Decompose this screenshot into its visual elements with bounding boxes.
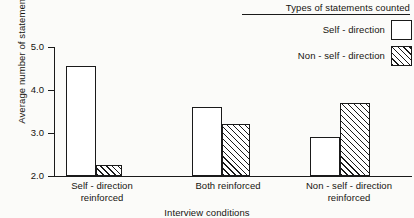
- chart-figure: Types of statements counted Self - direc…: [0, 0, 414, 218]
- x-tick-label-group3: Non - self - direction reinforced: [286, 180, 412, 203]
- bar-non-self-direction-group1: [96, 165, 122, 176]
- bar-non-self-direction-group3: [340, 103, 370, 176]
- legend-item-non-self-direction: Non - self - direction: [232, 45, 412, 66]
- x-tick-label-group3-line1: Non - self - direction: [286, 180, 412, 192]
- x-tick-label-group3-line2: reinforced: [286, 192, 412, 204]
- y-axis-line: [54, 47, 55, 177]
- legend-label-non-self-direction: Non - self - direction: [298, 50, 385, 61]
- x-tick-label-group1-line2: reinforced: [42, 192, 162, 204]
- x-axis-label: Interview conditions: [0, 207, 414, 218]
- y-tick-label-5: 5.0: [31, 42, 44, 52]
- hatched-square-swatch-icon: [391, 46, 412, 66]
- legend: Types of statements counted Self - direc…: [232, 2, 412, 71]
- open-square-swatch-icon: [391, 20, 412, 40]
- legend-label-self-direction: Self - direction: [323, 24, 385, 35]
- x-tick-label-group2-line1: Both reinforced: [168, 180, 288, 192]
- bar-self-direction-group3: [310, 137, 340, 176]
- legend-title: Types of statements counted: [232, 2, 412, 13]
- x-tick-label-group1: Self - direction reinforced: [42, 180, 162, 203]
- x-tick-label-group1-line1: Self - direction: [42, 180, 162, 192]
- x-axis-line: [54, 176, 412, 177]
- bar-non-self-direction-group2: [222, 124, 250, 176]
- bar-self-direction-group1: [66, 66, 96, 176]
- legend-title-underline: [242, 14, 410, 15]
- y-tick-label-4: 4.0: [31, 85, 44, 95]
- bar-self-direction-group2: [192, 107, 222, 176]
- legend-item-self-direction: Self - direction: [232, 19, 412, 40]
- y-axis-tick-labels: 5.0 4.0 3.0 2.0: [18, 40, 44, 185]
- y-tick-label-3: 3.0: [31, 128, 44, 138]
- x-tick-label-group2: Both reinforced: [168, 180, 288, 192]
